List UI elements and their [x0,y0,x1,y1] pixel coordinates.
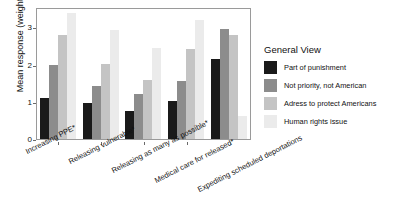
legend-rows: Part of punishmentNot priority, not Amer… [264,61,398,128]
bar-group [168,9,204,139]
bar [101,64,110,139]
bar [110,30,119,139]
bar [229,35,238,139]
bar [220,29,229,139]
plot-area [36,8,251,140]
bar [67,13,76,139]
legend-label: Not priority, not American [284,81,366,90]
y-tick-label: 1 [28,99,32,107]
x-tick-mark [187,142,188,145]
legend-title: General View [264,44,398,55]
bar-group [211,9,247,139]
legend-item: Not priority, not American [264,79,398,92]
bar [238,116,247,139]
legend-swatch [264,61,277,74]
legend-label: Adress to protect Americans [284,99,376,108]
bar [49,65,58,139]
bar-group [125,9,161,139]
legend-item: Adress to protect Americans [264,97,398,110]
legend-label: Human rights issue [284,117,347,126]
legend: General View Part of punishmentNot prior… [264,44,398,133]
bar-group [40,9,76,139]
legend-label: Part of punishment [284,63,346,72]
bar [143,80,152,139]
x-tick-mark [230,142,231,145]
y-tick-label: 3 [28,24,32,32]
legend-swatch [264,115,277,128]
x-axis-labels: Increasing PPE*Releasing vulnerable*Rele… [0,142,260,208]
bar [58,35,67,139]
bar [152,48,161,139]
x-tick-mark [58,142,59,145]
bar-group [83,9,119,139]
bar [83,103,92,139]
legend-swatch [264,97,277,110]
x-tick-mark [144,142,145,145]
legend-item: Human rights issue [264,115,398,128]
legend-item: Part of punishment [264,61,398,74]
bar [211,59,220,139]
bars-layer [37,9,250,139]
bar [92,86,101,139]
bar [40,98,49,139]
bar-chart: Mean response (weighted) 0123 Increasing… [0,0,400,210]
legend-swatch [264,79,277,92]
y-tick-label: 2 [28,62,32,70]
y-axis: Mean response (weighted) 0123 [0,0,36,148]
x-axis-label: Expediting scheduled deportations [196,133,304,194]
y-axis-title: Mean response (weighted) [15,0,25,99]
